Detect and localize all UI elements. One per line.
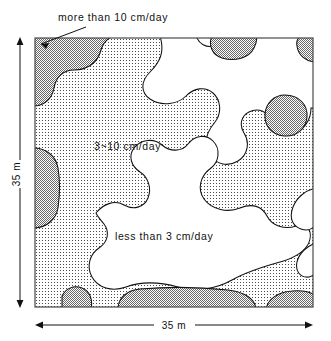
label-3-to-10: 3~10 cm/day — [94, 140, 161, 152]
region-more-than-10-left — [33, 148, 60, 228]
dimension-vertical-label: 35 m — [11, 162, 22, 187]
dimension-horizontal: 35 m — [35, 320, 313, 331]
arrow-down-icon — [17, 300, 24, 308]
map-area — [33, 36, 316, 309]
label-more-than-10: more than 10 cm/day — [58, 11, 168, 23]
arrow-up-icon — [17, 37, 24, 45]
arrow-right-icon — [305, 322, 313, 329]
dimension-horizontal-label: 35 m — [162, 320, 187, 331]
dimension-vertical: 35 m — [11, 37, 23, 308]
infiltration-contour-figure: more than 10 cm/day 3~10 cm/day less tha… — [0, 0, 331, 341]
label-less-than-3: less than 3 cm/day — [115, 230, 213, 242]
region-more-than-10-bottom — [118, 288, 256, 309]
region-more-than-10-blob — [265, 95, 307, 136]
arrow-left-icon — [35, 322, 43, 329]
